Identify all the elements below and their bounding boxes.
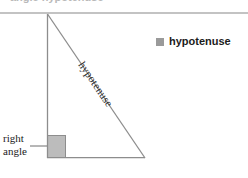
triangle-svg (0, 0, 248, 178)
legend: hypotenuse (156, 36, 231, 47)
triangle-drawing-canvas (0, 0, 248, 178)
right-angle-callout-line1: right (3, 132, 24, 144)
right-triangle-figure: angle hypotenuse hypotenuse hypotenuse r… (0, 0, 248, 178)
legend-item-label-hypotenuse: hypotenuse (169, 36, 231, 47)
hypotenuse-swatch-icon (156, 38, 164, 46)
right-angle-square (48, 136, 66, 158)
right-angle-callout-line2: angle (3, 145, 31, 158)
right-angle-callout: right angle (3, 132, 31, 158)
